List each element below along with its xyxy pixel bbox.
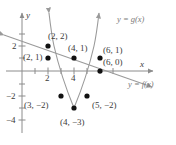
- point-2-1: [45, 55, 50, 60]
- curve-label-f: y = f(x): [128, 80, 154, 89]
- point-label-5-m2: (5, −2): [92, 101, 117, 110]
- coordinate-plane: [0, 0, 176, 145]
- point-label-2-1: (2, 1): [23, 53, 43, 62]
- point-label-4-1: (4, 1): [68, 44, 88, 53]
- point-label-6-1: (6, 1): [103, 46, 123, 55]
- point-6-1: [97, 55, 102, 60]
- point-label-4-m3: (4, −3): [60, 118, 85, 127]
- y-tick-label-m2: −2: [6, 92, 16, 101]
- axes: [6, 13, 153, 133]
- y-tick-label-m4: −4: [6, 116, 16, 125]
- curve-label-g: y = g(x): [117, 15, 144, 24]
- point-3-m2: [58, 93, 63, 98]
- point-label-3-m2: (3, −2): [24, 101, 49, 110]
- x-tick-label-2: 2: [45, 74, 50, 83]
- point-2-2: [45, 43, 50, 48]
- x-axis-label: x: [140, 60, 144, 69]
- point-4-1: [71, 55, 76, 60]
- graph-figure: x y 2 4 2 −2 −4 (2, 2) (2, 1) (4, 1) (6,…: [0, 0, 176, 145]
- x-tick-label-4: 4: [71, 74, 76, 83]
- point-label-2-2: (2, 2): [48, 32, 68, 41]
- y-axis-label: y: [26, 11, 30, 20]
- point-6-0: [97, 68, 102, 73]
- point-5-m2: [84, 93, 89, 98]
- point-4-m3: [71, 105, 76, 110]
- point-label-6-0: (6, 0): [103, 58, 123, 67]
- y-tick-label-2: 2: [12, 42, 17, 51]
